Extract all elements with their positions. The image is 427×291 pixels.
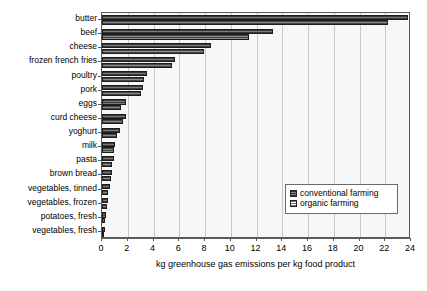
x-tick-label: 12 (246, 243, 266, 253)
x-tick-label: 6 (168, 243, 188, 253)
bar (102, 63, 172, 68)
category-label: poultry (71, 71, 97, 80)
bar (102, 29, 273, 34)
bar (102, 119, 123, 124)
category-tick (98, 160, 101, 161)
gridline (257, 13, 258, 237)
x-tick (204, 238, 205, 241)
x-tick-label: 4 (143, 243, 163, 253)
bar (102, 162, 112, 167)
x-tick (384, 238, 385, 241)
ghg-emissions-bar-chart: butterbeefcheesefrozen french friespoult… (0, 0, 427, 291)
bar (102, 57, 175, 62)
gridline (231, 13, 232, 237)
category-tick (98, 146, 101, 147)
x-tick-label: 16 (297, 243, 317, 253)
bar (102, 34, 249, 39)
x-tick-label: 2 (117, 243, 137, 253)
category-label: vegetables, frozen (28, 198, 97, 207)
x-tick (307, 238, 308, 241)
bar (102, 77, 144, 82)
bar (102, 170, 112, 175)
bar (102, 133, 117, 138)
bar (102, 49, 204, 54)
bar (102, 142, 115, 147)
category-label: brown bread (50, 169, 97, 178)
gridline (282, 13, 283, 237)
x-tick-label: 8 (194, 243, 214, 253)
bar (102, 43, 211, 48)
x-axis-title: kg greenhouse gas emissions per kg food … (101, 259, 410, 269)
bar (102, 85, 143, 90)
category-tick (98, 47, 101, 48)
category-label: pork (80, 85, 97, 94)
legend-item-conventional: conventional farming (290, 189, 393, 198)
bar (102, 99, 126, 104)
bar (102, 147, 114, 152)
category-label: butter (75, 14, 97, 23)
x-tick (153, 238, 154, 241)
legend-item-organic: organic farming (290, 199, 393, 208)
bar (102, 184, 110, 189)
bar (102, 198, 108, 203)
bar (102, 204, 107, 209)
legend: conventional farming organic farming (285, 184, 398, 214)
category-tick (98, 203, 101, 204)
category-label: beef (80, 28, 97, 37)
category-tick (98, 189, 101, 190)
bar (102, 190, 108, 195)
category-label: frozen french fries (29, 56, 97, 65)
x-tick-label: 22 (374, 243, 394, 253)
category-axis-labels: butterbeefcheesefrozen french friespoult… (0, 12, 97, 238)
x-tick-label: 24 (400, 243, 420, 253)
x-tick (230, 238, 231, 241)
category-label: yoghurt (69, 127, 97, 136)
x-tick-label: 18 (323, 243, 343, 253)
bar (102, 212, 106, 217)
bar (102, 232, 104, 237)
category-label: vegetables, fresh (32, 226, 97, 235)
x-tick (333, 238, 334, 241)
bar (102, 20, 388, 25)
category-label: curd cheese (51, 113, 97, 122)
category-tick (98, 104, 101, 105)
legend-swatch-organic-icon (290, 200, 297, 207)
x-tick (178, 238, 179, 241)
legend-swatch-conventional-icon (290, 190, 297, 197)
x-tick-label: 20 (349, 243, 369, 253)
x-tick (410, 238, 411, 241)
bar (102, 71, 147, 76)
bar (102, 218, 105, 223)
x-tick-label: 14 (271, 243, 291, 253)
category-tick (98, 90, 101, 91)
bar (102, 156, 114, 161)
x-tick (359, 238, 360, 241)
bar (102, 128, 120, 133)
category-tick (98, 174, 101, 175)
category-tick (98, 118, 101, 119)
bar (102, 114, 126, 119)
x-tick (281, 238, 282, 241)
category-label: vegetables, tinned (28, 184, 97, 193)
category-tick (98, 19, 101, 20)
legend-label-organic: organic farming (300, 199, 359, 208)
category-label: milk (82, 141, 97, 150)
bar (102, 105, 121, 110)
bar (102, 15, 408, 20)
category-tick (98, 231, 101, 232)
legend-label-conventional: conventional farming (300, 189, 378, 198)
category-tick (98, 61, 101, 62)
x-tick (256, 238, 257, 241)
category-label: potatoes, fresh (41, 212, 97, 221)
x-tick-label: 0 (91, 243, 111, 253)
bar (102, 227, 105, 232)
category-tick (98, 33, 101, 34)
bar (102, 176, 111, 181)
bar (102, 91, 141, 96)
x-tick-label: 10 (220, 243, 240, 253)
x-tick (127, 238, 128, 241)
category-label: cheese (70, 42, 97, 51)
category-label: pasta (76, 155, 97, 164)
category-tick (98, 76, 101, 77)
category-label: eggs (79, 99, 97, 108)
